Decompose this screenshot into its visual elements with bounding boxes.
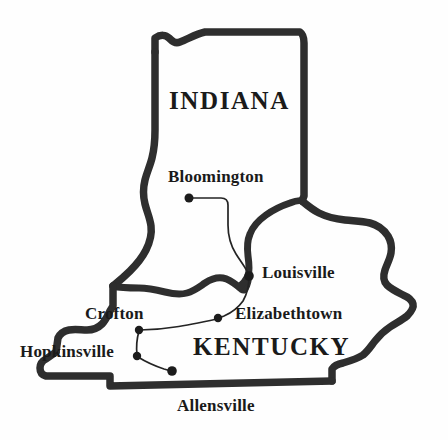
city-label-louisville: Louisville (262, 264, 335, 281)
state-label-kentucky: KENTUCKY (193, 334, 350, 359)
road-elizabethtown-crofton (140, 319, 217, 330)
city-dot-allensville[interactable] (167, 366, 177, 376)
road-crofton-hopkinsville (137, 331, 139, 355)
city-dot-hopkinsville[interactable] (133, 352, 141, 360)
map-vector-layer (0, 0, 448, 440)
city-label-allensville: Allensville (177, 397, 255, 414)
map-canvas: INDIANA KENTUCKY Bloomington Louisville … (0, 0, 448, 440)
city-dot-elizabethtown[interactable] (214, 314, 222, 322)
city-label-bloomington: Bloomington (168, 168, 264, 185)
ohio-river-border (113, 276, 249, 294)
road-bloomington-louisville (190, 198, 249, 275)
city-dot-louisville[interactable] (244, 271, 254, 281)
road-hopkinsville-allensville (138, 357, 171, 371)
city-label-hopkinsville: Hopkinsville (20, 343, 114, 360)
indiana-west-border (113, 52, 155, 286)
city-dot-bloomington[interactable] (185, 194, 194, 203)
city-label-elizabethtown: Elizabethtown (235, 305, 342, 322)
city-dot-crofton[interactable] (135, 326, 143, 334)
state-label-indiana: INDIANA (169, 88, 290, 113)
city-label-crofton: Crofton (85, 305, 144, 322)
